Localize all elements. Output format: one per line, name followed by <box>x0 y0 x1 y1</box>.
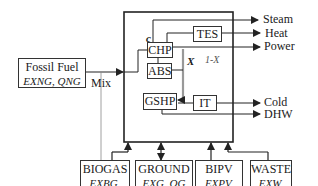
biogas-box: BIOGAS EXBG, QBG <box>80 160 130 186</box>
it-box: IT <box>193 95 217 111</box>
bipv-vars: EXPV, QPV <box>196 176 242 186</box>
chp-box: CHP <box>147 42 173 58</box>
waste-box: WASTE EXW, QW <box>250 160 292 186</box>
bipv-box: BIPV EXPV, QPV <box>195 160 243 186</box>
biogas-title: BIOGAS <box>81 162 129 176</box>
gshp-box: GSHP <box>143 93 177 110</box>
ground-title: GROUND <box>136 162 192 176</box>
bipv-title: BIPV <box>196 162 242 176</box>
fossil-fuel-vars: EXNG, QNG <box>19 74 85 88</box>
one-minus-x-label: 1-X <box>205 53 219 66</box>
output-steam: Steam <box>263 13 293 26</box>
ground-box: GROUND EXG, QG <box>135 160 193 186</box>
x-label: X <box>187 55 194 68</box>
abs-box: ABS <box>147 63 172 79</box>
output-dhw: DHW <box>264 108 293 121</box>
ground-vars: EXG, QG <box>136 176 192 186</box>
mix-label: Mix <box>91 77 111 90</box>
fossil-fuel-title: Fossil Fuel <box>19 60 85 74</box>
biogas-vars: EXBG, QBG <box>81 176 129 186</box>
waste-title: WASTE <box>251 162 291 176</box>
output-power: Power <box>264 40 295 53</box>
waste-vars: EXW, QW <box>251 176 291 186</box>
fossil-fuel-box: Fossil Fuel EXNG, QNG <box>18 58 86 88</box>
tes-box: TES <box>193 26 222 42</box>
